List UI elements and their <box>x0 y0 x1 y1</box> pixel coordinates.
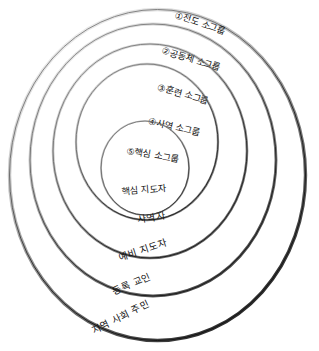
ring-1-group-label: ①전도 소그룹 <box>173 9 226 36</box>
ring-4-group-label: ④사역 소그룹 <box>147 115 201 138</box>
ring-1-circle-shadow <box>10 10 306 341</box>
ring-1-member-label: 지역 사회 주민 <box>90 298 151 335</box>
ring-1: ①전도 소그룹 지역 사회 주민 <box>10 9 306 340</box>
ring-5-member-label: 핵심 지도자 <box>121 182 167 197</box>
ring-5-group-label: ⑤핵심 소그룹 <box>126 145 180 164</box>
diagram-canvas: ①전도 소그룹 지역 사회 주민 ②공동체 소그룹 등록 교인 ③훈련 소그룹 … <box>0 0 319 351</box>
ring-4-circle-shadow <box>76 64 218 220</box>
ring-5-circle-shadow <box>101 121 189 215</box>
concentric-circles-diagram: ①전도 소그룹 지역 사회 주민 ②공동체 소그룹 등록 교인 ③훈련 소그룹 … <box>0 0 319 351</box>
ring-4: ④사역 소그룹 사역자 <box>76 64 218 225</box>
ring-5: ⑤핵심 소그룹 핵심 지도자 <box>101 121 189 215</box>
